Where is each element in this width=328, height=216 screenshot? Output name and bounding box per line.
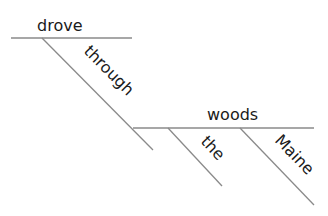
word-drove: drove bbox=[37, 16, 82, 35]
sentence-diagram: drove through woods the Maine bbox=[0, 0, 328, 216]
word-maine: Maine bbox=[271, 131, 318, 179]
word-woods: woods bbox=[207, 105, 258, 124]
word-the: the bbox=[197, 132, 229, 164]
word-through: through bbox=[80, 41, 138, 99]
